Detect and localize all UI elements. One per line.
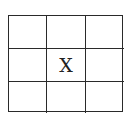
cell-0-0[interactable]: [9, 16, 47, 49]
tic-tac-toe-board: X: [8, 15, 123, 112]
cell-2-2[interactable]: [86, 82, 124, 113]
cell-1-1[interactable]: X: [47, 49, 86, 82]
cell-1-0[interactable]: [9, 49, 47, 82]
cell-2-1[interactable]: [47, 82, 86, 113]
cell-0-2[interactable]: [86, 16, 124, 49]
cell-2-0[interactable]: [9, 82, 47, 113]
cell-0-1[interactable]: [47, 16, 86, 49]
cell-1-2[interactable]: [86, 49, 124, 82]
